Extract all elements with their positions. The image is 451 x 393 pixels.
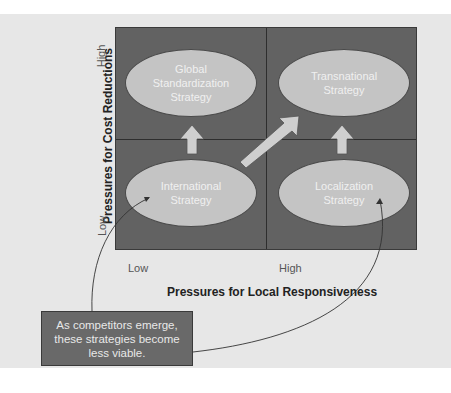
connector-right bbox=[193, 200, 383, 352]
note-text: As competitors emerge, these strategies … bbox=[54, 318, 179, 360]
x-axis-title: Pressures for Local Responsiveness bbox=[167, 285, 377, 299]
diagonal-arrow-icon bbox=[240, 116, 299, 168]
y-axis-title: Pressures for Cost Reductions bbox=[101, 46, 115, 226]
x-axis-high-label: High bbox=[279, 262, 302, 274]
up-arrow-left-icon bbox=[180, 125, 204, 154]
up-arrow-right-icon bbox=[330, 125, 354, 154]
y-axis-high-label: High bbox=[95, 45, 107, 68]
note-box: As competitors emerge, these strategies … bbox=[41, 311, 193, 366]
y-axis-low-label: Low bbox=[96, 216, 108, 236]
x-axis-low-label: Low bbox=[128, 262, 148, 274]
